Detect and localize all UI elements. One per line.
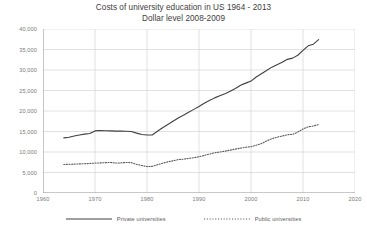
- legend-label-private-universities: Private universities: [117, 216, 166, 222]
- y-axis-tick-label: 25,000: [19, 88, 37, 94]
- y-axis-tick-label: 15,000: [19, 129, 37, 135]
- y-axis-tick-label: 20,000: [19, 108, 37, 114]
- x-axis-tick-label: 2000: [245, 196, 258, 202]
- chart-legend: Private universities Public universities: [0, 212, 367, 226]
- legend-swatch-dotted-icon: [204, 216, 250, 222]
- chart-plot-svg: [43, 29, 355, 193]
- y-axis-tick-label: 30,000: [19, 67, 37, 73]
- y-axis-tick-label: 35,000: [19, 47, 37, 53]
- legend-label-public-universities: Public universities: [255, 216, 302, 222]
- plot-area: [43, 29, 355, 193]
- x-axis-tick-label: 1970: [89, 196, 102, 202]
- y-axis-tick-label: 40,000: [19, 26, 37, 32]
- x-axis-tick-labels: 1960197019801990200020102020: [43, 196, 355, 208]
- legend-item-private-universities: Private universities: [66, 216, 166, 222]
- x-axis-tick-label: 2010: [297, 196, 310, 202]
- legend-swatch-solid-icon: [66, 216, 112, 222]
- y-axis-tick-label: 5,000: [23, 170, 38, 176]
- y-axis-tick-labels: 05,00010,00015,00020,00025,00030,00035,0…: [0, 29, 40, 193]
- x-axis-tick-label: 1980: [141, 196, 154, 202]
- y-axis-tick-label: 10,000: [19, 149, 37, 155]
- x-axis-tick-label: 1990: [193, 196, 206, 202]
- chart-container: Costs of university education in US 1964…: [0, 0, 367, 229]
- page-title: Costs of university education in US 1964…: [0, 3, 367, 14]
- legend-item-public-universities: Public universities: [204, 216, 302, 222]
- chart-title-block: Costs of university education in US 1964…: [0, 3, 367, 24]
- x-axis-tick-label: 2020: [349, 196, 362, 202]
- x-axis-tick-label: 1960: [37, 196, 50, 202]
- chart-subtitle: Dollar level 2008-2009: [0, 14, 367, 25]
